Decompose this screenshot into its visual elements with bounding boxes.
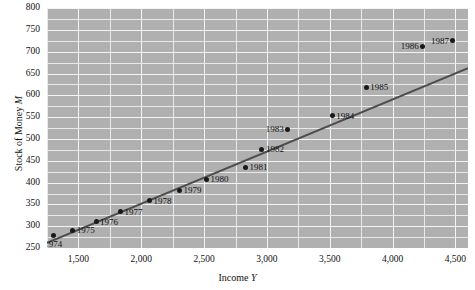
x-axis-tick-label: 3,000 <box>256 255 277 265</box>
x-axis-tick-label: 4,000 <box>382 255 403 265</box>
scatter-chart-figure: 250300350400450500550600650700750800 197… <box>0 0 475 290</box>
y-axis-title: Stock of Money M <box>13 64 24 204</box>
x-axis-tick-label: 3,500 <box>319 255 340 265</box>
x-axis-tick-label: 2,000 <box>131 255 152 265</box>
x-axis-tick-label: 2,500 <box>193 255 214 265</box>
x-axis-title: Income Y <box>0 272 475 283</box>
x-axis-tick-labels: 1,5002,0002,5003,0003,5004,0004,500 <box>0 0 475 290</box>
x-axis-tick-label: 4,500 <box>445 255 466 265</box>
x-axis-tick-label: 1,500 <box>68 255 89 265</box>
